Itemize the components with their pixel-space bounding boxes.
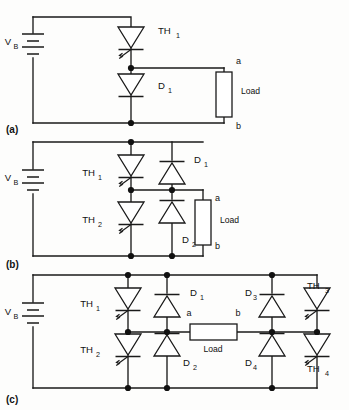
diode-d1-a — [118, 74, 144, 97]
junction-dot — [128, 139, 134, 145]
junction-dot — [164, 272, 170, 278]
d1-label-b: D — [194, 154, 201, 165]
diode-d1-c — [154, 295, 180, 318]
th4-sublabel-c: 4 — [325, 369, 329, 378]
node-a-label-a: a — [236, 56, 241, 66]
th1-label-c: TH — [80, 298, 93, 309]
th3-sublabel-c: 3 — [325, 286, 329, 295]
junction-dot — [164, 385, 170, 391]
circuit-figure: V B TH 1 D 1 Load a b (a) — [0, 0, 349, 410]
panel-a: V B TH 1 D 1 Load a b (a) — [5, 17, 261, 135]
d1-sublabel-b: 1 — [204, 160, 208, 169]
th1-sublabel-a: 1 — [176, 31, 180, 40]
vb-label-c: V — [5, 306, 12, 317]
junction-dot — [269, 385, 275, 391]
junction-dot — [269, 272, 275, 278]
node-b-label-c: b — [235, 308, 240, 318]
load-label-a: Load — [241, 86, 260, 96]
load-label-b: Load — [220, 215, 239, 225]
th2-sublabel-b: 2 — [98, 220, 102, 229]
panel-b-wiring — [33, 142, 203, 256]
junction-dot — [128, 187, 134, 193]
d3-sublabel-c: 3 — [253, 293, 257, 302]
node-a-label-b: a — [215, 193, 220, 203]
d4-sublabel-c: 4 — [253, 363, 257, 372]
diode-d3-c — [259, 295, 285, 318]
junction-dot — [269, 329, 275, 335]
th4-label-c: TH — [307, 363, 320, 374]
th2-label-b: TH — [82, 214, 95, 225]
junction-dot — [128, 253, 134, 259]
vb-sublabel-b: B — [14, 178, 19, 187]
load-box-c — [190, 324, 237, 340]
junction-dot — [169, 253, 175, 259]
node-b-label-b: b — [215, 241, 220, 251]
voltage-source-vb-c — [22, 303, 44, 323]
diode-d4-c — [259, 334, 285, 357]
junction-dot — [314, 329, 320, 335]
panel-label-b: (b) — [6, 259, 19, 270]
th1-label-a: TH — [158, 25, 171, 36]
load-box-b — [195, 200, 211, 245]
d1-label-a: D — [158, 80, 165, 91]
diode-d1-b — [159, 162, 185, 185]
load-label-c: Load — [203, 344, 222, 354]
junction-dot — [125, 329, 131, 335]
vb-sublabel-c: B — [14, 312, 19, 321]
junction-dot — [169, 187, 175, 193]
th1-sublabel-b: 1 — [98, 173, 102, 182]
panel-label-a: (a) — [6, 124, 18, 135]
junction-dot — [125, 385, 131, 391]
th2-sublabel-c: 2 — [96, 350, 100, 359]
junction-dot — [125, 272, 131, 278]
th3-label-c: TH — [307, 280, 320, 291]
d3-label-c: D — [245, 287, 252, 298]
d2-label-c: D — [183, 357, 190, 368]
d1-sublabel-a: 1 — [168, 86, 172, 95]
th1-sublabel-c: 1 — [96, 304, 100, 313]
d1-sublabel-c: 1 — [200, 293, 204, 302]
d2-sublabel-c: 2 — [193, 363, 197, 372]
node-b-label-a: b — [236, 121, 241, 131]
vb-label-b: V — [5, 172, 12, 183]
panel-label-c: (c) — [6, 394, 18, 405]
voltage-source-vb-b — [22, 170, 44, 190]
diode-d2-c — [154, 334, 180, 357]
th1-label-b: TH — [82, 167, 95, 178]
diode-d2-b — [159, 201, 185, 224]
d2-label-b: D — [182, 234, 189, 245]
junction-dot — [128, 65, 134, 71]
d1-label-c: D — [190, 287, 197, 298]
node-a-label-c: a — [186, 308, 191, 318]
th2-label-c: TH — [80, 344, 93, 355]
vb-label-a: V — [5, 36, 12, 47]
junction-dot — [128, 120, 134, 126]
vb-sublabel-a: B — [14, 42, 19, 51]
junction-dot — [164, 329, 170, 335]
panel-c: V B TH 1 TH 2 D 1 D 2 D 3 — [5, 272, 330, 405]
voltage-source-vb-a — [22, 34, 44, 54]
load-box-a — [216, 72, 232, 117]
panel-b: V B TH 1 TH 2 D 1 D 2 Load a b — [5, 139, 240, 270]
d4-label-c: D — [245, 357, 252, 368]
